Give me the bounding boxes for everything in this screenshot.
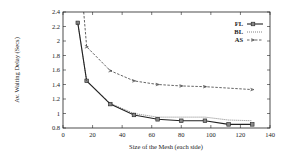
square-marker xyxy=(250,123,254,127)
series-line xyxy=(78,23,252,121)
legend-item-as: AS xyxy=(235,36,263,43)
y-tick-label: 2 xyxy=(57,37,60,44)
series-fl xyxy=(76,21,254,126)
x-tick-label: 120 xyxy=(236,131,246,138)
legend-label: BL xyxy=(234,28,243,35)
y-tick-label: 1 xyxy=(57,110,60,117)
series-bl xyxy=(78,23,252,121)
legend: FLBLAS xyxy=(234,20,263,43)
square-marker xyxy=(227,123,231,127)
legend-label: AS xyxy=(235,36,244,43)
y-tick-label: 1.2 xyxy=(52,95,60,102)
x-tick-label: 40 xyxy=(119,131,126,138)
y-tick-label: 2.4 xyxy=(52,8,61,15)
series-line xyxy=(78,23,252,125)
square-marker xyxy=(156,118,160,122)
y-tick-label: 2.2 xyxy=(52,23,60,30)
x-tick-label: 100 xyxy=(206,131,216,138)
series-as xyxy=(84,12,254,91)
square-marker xyxy=(203,119,207,123)
series-group xyxy=(76,12,254,126)
y-tick-label: 1.6 xyxy=(52,66,61,73)
x-tick-label: 0 xyxy=(61,131,64,138)
legend-label: FL xyxy=(235,20,244,27)
legend-item-fl: FL xyxy=(235,20,263,27)
square-marker xyxy=(251,22,255,26)
y-tick-label: 0.8 xyxy=(52,124,60,131)
square-marker xyxy=(179,119,183,123)
series-line xyxy=(84,12,253,90)
x-tick-label: 80 xyxy=(178,131,185,138)
y-tick-label: 1.8 xyxy=(52,52,60,59)
x-tick-label: 60 xyxy=(148,131,155,138)
line-chart: 0.811.21.41.61.822.22.4 0204060801001201… xyxy=(0,0,287,161)
legend-item-bl: BL xyxy=(234,28,263,35)
x-tick-label: 20 xyxy=(89,131,96,138)
y-tick-label: 1.4 xyxy=(52,81,61,88)
x-axis-label: Size of the Mesh (each side) xyxy=(129,143,203,151)
x-tick-label: 140 xyxy=(265,131,275,138)
y-axis-label: Av. Waiting Delay (Secs) xyxy=(13,37,21,103)
